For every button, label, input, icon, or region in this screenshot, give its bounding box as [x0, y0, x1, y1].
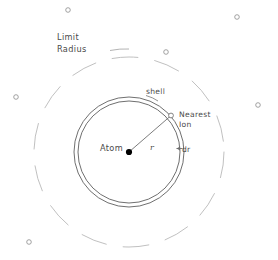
atom-center-dot — [126, 149, 132, 155]
limit-radius-leader-line — [110, 49, 129, 51]
nearest-ion-marker — [169, 113, 174, 118]
scattered-ion — [27, 240, 32, 245]
atom-label: Atom — [100, 143, 123, 153]
nearest-ion-label-line2: Ion — [179, 120, 192, 129]
scattered-ion — [66, 8, 71, 13]
scattered-ion — [235, 15, 240, 20]
scattered-ion — [164, 50, 169, 55]
scattered-ion — [14, 95, 19, 100]
radius-symbol-label: r — [150, 143, 155, 152]
dr-symbol-label: dr — [182, 145, 191, 154]
nearest-ion-label-line1: Nearest — [179, 110, 211, 119]
limit-radius-label-line2: Radius — [57, 44, 87, 54]
diagram-canvas: Limit Radius shell Nearest Ion Atom r dr — [0, 0, 278, 260]
limit-radius-label-line1: Limit — [57, 32, 79, 42]
shell-label: shell — [146, 87, 165, 96]
scattered-ion — [256, 103, 261, 108]
dr-arrow-head-icon — [177, 147, 181, 151]
atom-shell-diagram: Limit Radius shell Nearest Ion Atom r dr — [0, 0, 278, 260]
